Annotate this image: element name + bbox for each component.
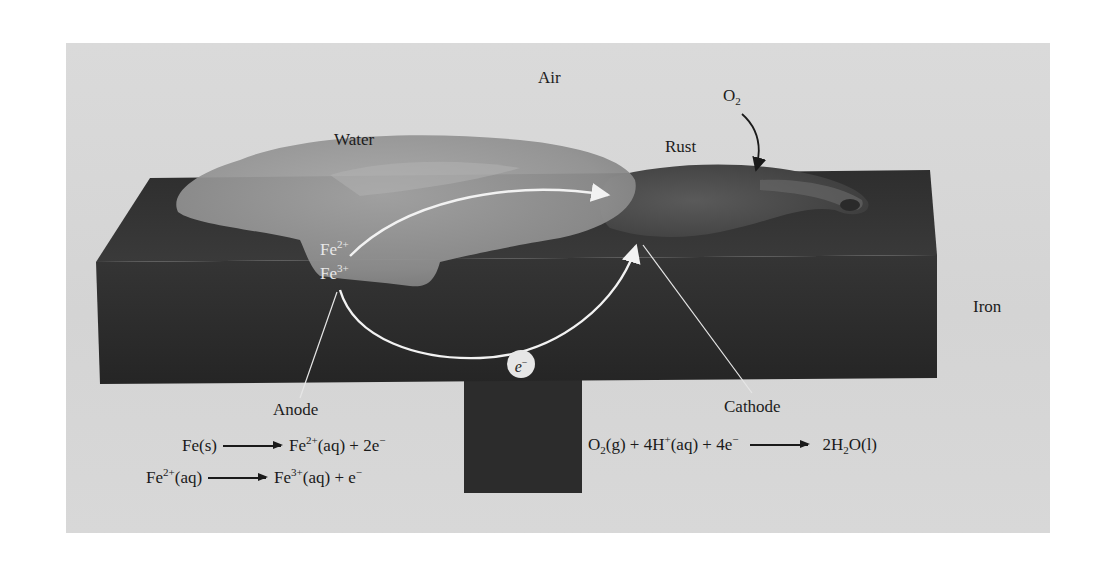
label-anode: Anode <box>273 400 318 420</box>
anode-eq2-reactant: Fe <box>146 468 163 487</box>
anode-eq2-product-tail: (aq) + e <box>303 468 356 487</box>
cathode-o2: O <box>588 435 600 454</box>
reaction-arrow-icon <box>750 444 808 445</box>
reaction-arrow-icon <box>223 445 281 446</box>
rust-pit <box>840 199 860 211</box>
label-oxygen: O2 <box>723 86 741 107</box>
cathode-o2-state: (g) + 4H <box>606 435 665 454</box>
anode-eq2-product: Fe <box>274 468 291 487</box>
ion-fe2-symbol: Fe <box>320 240 337 259</box>
electron-charge: − <box>522 357 528 368</box>
cathode-product-o: O(l) <box>849 435 877 454</box>
oxygen-symbol: O <box>723 86 735 105</box>
cathode-equation: O2(g) + 4H+(aq) + 4e−2H2O(l) <box>588 433 877 456</box>
anode-eq2-reactant-charge: 2+ <box>163 466 175 478</box>
ion-fe3-symbol: Fe <box>320 264 337 283</box>
ion-fe2: Fe2+ <box>320 238 349 260</box>
cathode-electron-charge: − <box>732 433 738 445</box>
label-air: Air <box>538 68 561 88</box>
oxygen-subscript: 2 <box>735 95 741 107</box>
label-water: Water <box>334 130 374 150</box>
anode-equation-1: Fe(s)Fe2+(aq) + 2e− <box>182 434 385 456</box>
anode-eq1-product-charge: 2+ <box>306 434 318 446</box>
electron-symbol: e <box>515 358 522 375</box>
reaction-arrow-icon <box>208 477 266 478</box>
anode-eq2-reactant-state: (aq) <box>175 468 202 487</box>
anode-equation-2: Fe2+(aq)Fe3+(aq) + e− <box>146 466 362 488</box>
anode-eq2-product-charge: 3+ <box>291 466 303 478</box>
label-cathode: Cathode <box>724 397 781 417</box>
ion-fe3-charge: 3+ <box>337 262 349 274</box>
ion-fe2-charge: 2+ <box>337 238 349 250</box>
label-iron: Iron <box>973 297 1001 317</box>
oxygen-arrow <box>742 114 759 170</box>
ion-fe3: Fe3+ <box>320 262 349 284</box>
iron-pedestal <box>464 375 582 493</box>
electron-badge: e− <box>507 350 535 378</box>
cathode-product-h: 2H <box>822 435 843 454</box>
cathode-h-state: (aq) + 4e <box>671 435 733 454</box>
anode-eq1-reactants: Fe(s) <box>182 436 217 455</box>
anode-eq2-electron-charge: − <box>356 466 362 478</box>
anode-eq1-electron-charge: − <box>379 434 385 446</box>
label-rust: Rust <box>665 137 696 157</box>
anode-eq1-product: Fe <box>289 436 306 455</box>
anode-eq1-product-tail: (aq) + 2e <box>318 436 380 455</box>
